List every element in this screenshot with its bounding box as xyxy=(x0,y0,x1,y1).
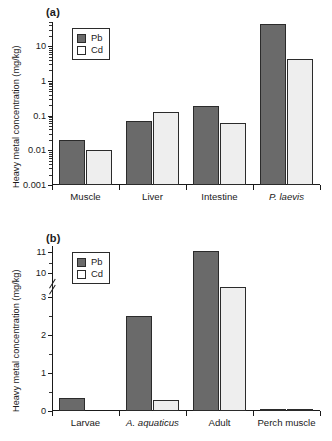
panel-a-yticklabel-3: 1 xyxy=(41,76,46,86)
panel-a-yminortick xyxy=(49,121,52,122)
panel-b-bar-pb-0 xyxy=(59,398,85,411)
panel-b-bar-pb-1 xyxy=(126,316,152,411)
panel-a-yminortick xyxy=(49,30,52,31)
panel-a-yminortick xyxy=(49,158,52,159)
panel-a-yticklabel-4: 10 xyxy=(36,41,46,51)
panel-a-legend: PbCd xyxy=(72,28,110,60)
panel-a-yminortick xyxy=(49,36,52,37)
panel-a-yminortick xyxy=(49,70,52,71)
panel-b: (b) Heavy metal concentration (mg/kg) 01… xyxy=(0,216,332,441)
panel-b-yminortick xyxy=(49,392,52,393)
panel-b-yminortick xyxy=(49,354,52,355)
panel-a-yminortick xyxy=(49,57,52,58)
panel-a-plot-area: 0.0010.010.1110MuscleLiverIntestineP. la… xyxy=(52,22,320,185)
panel-b-ytick-5 xyxy=(48,252,53,253)
panel-a-yminortick xyxy=(49,154,52,155)
panel-a-yminortick xyxy=(49,89,52,90)
panel-a-xlabel-1: Liver xyxy=(142,191,163,202)
panel-b-legend-item-cd: Cd xyxy=(77,268,103,280)
panel-a-bar-cd-0 xyxy=(86,150,112,185)
panel-a-bar-cd-2 xyxy=(220,123,246,185)
panel-a-yminortick xyxy=(49,99,52,100)
panel-b-bar-cd-2 xyxy=(220,287,246,411)
panel-b-yticklabel-4: 10 xyxy=(36,268,46,278)
panel-a: (a) Heavy metal concentration (mg/kg) 0.… xyxy=(0,0,332,216)
panel-b-ytick-4 xyxy=(48,273,53,274)
panel-a-yminortick xyxy=(49,140,52,141)
panel-a-yticklabel-0: 0.001 xyxy=(23,180,46,190)
panel-a-xlabel-2: Intestine xyxy=(201,191,237,202)
panel-b-yminortick xyxy=(49,316,52,317)
panel-b-xtick-2 xyxy=(253,411,254,416)
panel-a-legend-swatch-pb xyxy=(77,34,86,43)
panel-a-bar-cd-1 xyxy=(153,112,179,185)
panel-b-bar-pb-2 xyxy=(193,251,219,411)
panel-b-xlabel-3: Perch muscle xyxy=(257,417,315,428)
panel-b-legend-label-cd: Cd xyxy=(91,269,103,278)
panel-a-yminortick xyxy=(49,129,52,130)
panel-a-yminortick xyxy=(49,161,52,162)
panel-a-yminortick xyxy=(49,91,52,92)
panel-a-y-axis-label: Heavy metal concentration (mg/kg) xyxy=(11,46,21,188)
panel-b-legend: PbCd xyxy=(72,252,110,284)
panel-a-xtick-3 xyxy=(320,185,321,190)
panel-b-xtick-0 xyxy=(119,411,120,416)
panel-a-yminortick xyxy=(49,52,52,53)
panel-a-xtick-1 xyxy=(186,185,187,190)
panel-b-xtick-origin xyxy=(52,411,53,416)
panel-a-y-axis xyxy=(52,22,53,185)
panel-a-yminortick xyxy=(49,48,52,49)
panel-a-legend-label-pb: Pb xyxy=(91,33,102,42)
panel-a-yticklabel-1: 0.01 xyxy=(28,145,46,155)
panel-b-xlabel-0: Larvae xyxy=(71,417,100,428)
panel-b-y-axis xyxy=(52,246,53,411)
panel-a-yminortick xyxy=(49,117,52,118)
panel-a-yminortick xyxy=(49,22,52,23)
panel-a-xtick-2 xyxy=(253,185,254,190)
panel-a-yminortick xyxy=(49,134,52,135)
panel-a-yminortick xyxy=(49,64,52,65)
panel-a-yminortick xyxy=(49,119,52,120)
panel-a-yminortick xyxy=(49,168,52,169)
panel-a-yminortick xyxy=(49,54,52,55)
panel-a-yminortick xyxy=(49,25,52,26)
panel-b-y-axis-label: Heavy metal concentration (mg/kg) xyxy=(11,270,21,412)
panel-b-yticklabel-0: 0 xyxy=(41,406,46,416)
figure-heavy-metal-concentration: (a) Heavy metal concentration (mg/kg) 0.… xyxy=(0,0,332,441)
panel-a-legend-item-pb: Pb xyxy=(77,32,103,44)
panel-a-label: (a) xyxy=(46,6,60,18)
panel-b-xlabel-1: A. aquaticus xyxy=(126,417,179,428)
panel-b-yminortick xyxy=(49,263,52,264)
panel-a-bar-pb-3 xyxy=(260,24,286,185)
panel-a-yminortick xyxy=(49,105,52,106)
panel-b-xtick-3 xyxy=(320,411,321,416)
panel-b-legend-label-pb: Pb xyxy=(91,257,102,266)
panel-b-bar-cd-1 xyxy=(153,400,179,411)
panel-a-yminortick xyxy=(49,60,52,61)
panel-a-yminortick xyxy=(49,84,52,85)
panel-a-bar-pb-0 xyxy=(59,140,85,185)
panel-b-bar-pb-3 xyxy=(260,409,286,411)
panel-b-ytick-2 xyxy=(48,335,53,336)
panel-a-yminortick xyxy=(49,50,52,51)
panel-a-xtick-origin xyxy=(52,185,53,190)
panel-b-legend-swatch-cd xyxy=(77,270,86,279)
panel-a-xlabel-3: P. laevis xyxy=(269,191,304,202)
panel-b-legend-item-pb: Pb xyxy=(77,256,103,268)
panel-a-yminortick xyxy=(49,95,52,96)
panel-b-yticklabel-2: 2 xyxy=(41,330,46,340)
panel-a-yminortick xyxy=(49,83,52,84)
panel-a-xlabel-0: Muscle xyxy=(70,191,100,202)
panel-b-yticklabel-3: 3 xyxy=(41,292,46,302)
panel-b-legend-swatch-pb xyxy=(77,258,86,267)
panel-a-bar-pb-2 xyxy=(193,106,219,185)
panel-a-legend-label-cd: Cd xyxy=(91,45,103,54)
panel-a-xtick-0 xyxy=(119,185,120,190)
panel-b-ytick-3 xyxy=(48,297,53,298)
panel-b-label: (b) xyxy=(46,232,61,244)
panel-a-yminortick xyxy=(49,156,52,157)
panel-b-bar-cd-3 xyxy=(287,409,313,411)
panel-a-yminortick xyxy=(49,175,52,176)
panel-a-yminortick xyxy=(49,123,52,124)
panel-a-yminortick xyxy=(49,164,52,165)
